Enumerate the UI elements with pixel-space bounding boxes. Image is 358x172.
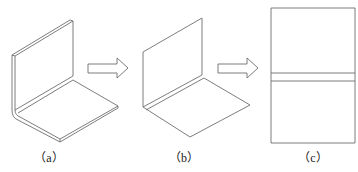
panel-label-b: （b） (169, 148, 199, 166)
panel-a-bent-part (12, 20, 118, 142)
panel-label-a: （a） (34, 148, 63, 166)
panel-label-c: （c） (298, 148, 327, 166)
sheet-metal-unfolding-diagram: （a） （b） （c） (0, 0, 358, 172)
arrow-b-to-c-icon (218, 58, 258, 78)
panel-c-flat-pattern (271, 8, 355, 143)
panel-b-sharp-bend-part (143, 18, 250, 137)
arrow-a-to-b-icon (88, 58, 128, 78)
